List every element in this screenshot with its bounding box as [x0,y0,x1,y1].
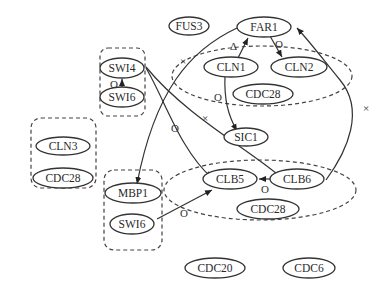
svg-text:SWI6: SWI6 [109,91,136,103]
svg-text:MBP1: MBP1 [118,187,148,199]
svg-text:CLB6: CLB6 [283,173,311,185]
svg-text:SWI4: SWI4 [109,62,136,74]
edge-far1-mbp1 [137,28,237,184]
svg-text:CDC28: CDC28 [245,88,280,100]
svg-text:FUS3: FUS3 [176,20,203,32]
network-diagram: O Δ O O × O × O O × FUS3 FAR1 CLN1 CLN2 … [0,0,385,298]
edge-label-clb6-far1: × [363,102,369,114]
node-swi6-bottom: SWI6 [110,214,154,234]
node-mbp1: MBP1 [105,183,161,203]
svg-text:CLN1: CLN1 [217,61,246,73]
node-swi6-top: SWI6 [100,87,144,107]
edge-label-swi4-clb6: × [202,112,208,124]
svg-text:CLB5: CLB5 [216,173,244,185]
svg-text:CLN3: CLN3 [49,140,78,152]
edge-cln1-far1 [238,38,248,58]
svg-text:SWI6: SWI6 [119,218,146,230]
edge-label-far1-cln2: O [275,38,283,50]
edge-cln1-sic1 [225,75,237,131]
node-cln2: CLN2 [271,57,327,77]
node-cdc28-cln3: CDC28 [33,168,93,188]
svg-text:FAR1: FAR1 [250,21,278,33]
edge-label-far1-mbp1: × [180,55,186,67]
svg-text:CDC28: CDC28 [45,172,80,184]
node-cdc6: CDC6 [283,258,335,278]
edge-label-swi6-clb5: O [180,207,188,219]
node-far1: FAR1 [237,17,291,37]
edge-label-far1-cln1: Δ [230,40,237,52]
svg-text:CDC20: CDC20 [197,262,232,274]
edge-label-cln1-sic1: O [214,91,222,103]
svg-text:CDC28: CDC28 [250,203,285,215]
svg-text:CLN2: CLN2 [285,61,314,73]
svg-text:SIC1: SIC1 [234,131,258,143]
complex-mbp1-swi6-box [104,170,162,250]
edge-clb6-far1 [297,28,352,180]
node-sic1: SIC1 [224,128,268,146]
node-cdc28-cln: CDC28 [233,84,293,104]
node-swi4: SWI4 [100,58,144,78]
svg-text:CDC6: CDC6 [294,262,324,274]
node-cdc28-clb: CDC28 [237,199,299,219]
edge-label-clb6-clb5: O [261,183,269,195]
node-clb6: CLB6 [270,169,324,189]
edge-label-swi4-clb5: O [171,122,179,134]
node-cln1: CLN1 [204,57,258,77]
node-fus3: FUS3 [169,17,209,35]
node-cln3: CLN3 [36,137,90,155]
node-cdc20: CDC20 [185,258,245,278]
node-clb5: CLB5 [203,169,257,189]
